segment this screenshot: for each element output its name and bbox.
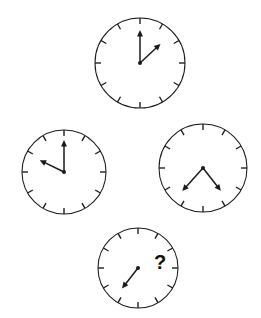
clock-bottom: ? xyxy=(98,228,178,308)
question-mark-label: ? xyxy=(154,251,166,273)
clock-left-center-hub xyxy=(62,170,66,174)
clock-top xyxy=(95,18,185,108)
clock-top-center-hub xyxy=(138,61,142,65)
clock-puzzle-figure: ? xyxy=(0,0,261,318)
clock-right xyxy=(159,124,247,212)
clock-bottom-center-hub xyxy=(136,266,140,270)
clock-right-center-hub xyxy=(201,166,205,170)
clock-left xyxy=(22,130,106,214)
clock-puzzle-canvas: ? xyxy=(0,0,261,318)
